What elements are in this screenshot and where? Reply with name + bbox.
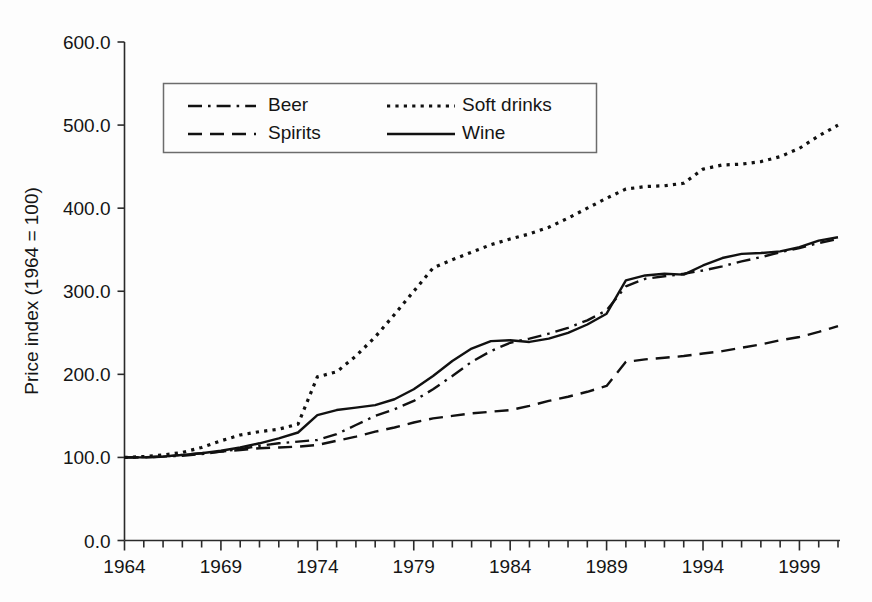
chart-legend: BeerSoft drinksSpiritsWine xyxy=(164,84,597,153)
y-tick-label: 300.0 xyxy=(63,281,111,302)
x-tick-label: 1964 xyxy=(103,556,146,577)
series-line-wine xyxy=(125,237,839,457)
series-line-beer xyxy=(125,239,839,458)
line-chart: 0.0100.0200.0300.0400.0500.0600.0 196419… xyxy=(0,0,872,602)
y-tick-label: 200.0 xyxy=(63,364,111,385)
y-tick-label: 600.0 xyxy=(63,32,111,53)
x-tick-label: 1989 xyxy=(585,556,627,577)
x-tick-label: 1999 xyxy=(778,556,820,577)
x-tick-label: 1994 xyxy=(682,556,725,577)
y-axis-title: Price index (1964 = 100) xyxy=(21,187,42,395)
y-tick-label: 500.0 xyxy=(63,115,111,136)
x-axis-minor-ticks xyxy=(125,541,839,551)
x-tick-label: 1974 xyxy=(296,556,339,577)
legend-label-spirits: Spirits xyxy=(268,122,321,143)
legend-label-wine: Wine xyxy=(462,122,505,143)
y-tick-label: 0.0 xyxy=(84,531,110,552)
x-axis-tick-labels: 19641969197419791984198919941999 xyxy=(103,556,820,577)
legend-label-beer: Beer xyxy=(268,94,309,115)
series-line-soft-drinks xyxy=(125,125,839,457)
x-tick-label: 1969 xyxy=(200,556,242,577)
y-tick-label: 100.0 xyxy=(63,447,111,468)
legend-label-soft-drinks: Soft drinks xyxy=(462,94,552,115)
y-axis-ticks: 0.0100.0200.0300.0400.0500.0600.0 xyxy=(63,32,125,552)
x-tick-label: 1979 xyxy=(393,556,435,577)
data-series-group xyxy=(125,125,839,457)
chart-figure: 0.0100.0200.0300.0400.0500.0600.0 196419… xyxy=(0,0,872,602)
y-tick-label: 400.0 xyxy=(63,198,111,219)
x-tick-label: 1984 xyxy=(489,556,532,577)
